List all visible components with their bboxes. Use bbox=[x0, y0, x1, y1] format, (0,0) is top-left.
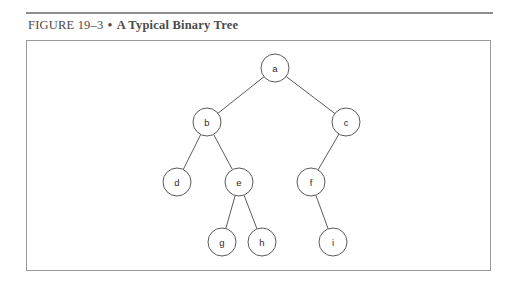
figure-border-box bbox=[26, 40, 491, 271]
caption-label: FIGURE bbox=[28, 18, 74, 32]
caption-title: A Typical Binary Tree bbox=[117, 18, 238, 32]
figure-caption-block: FIGURE 19–3 • A Typical Binary Tree bbox=[26, 12, 493, 37]
figure-caption: FIGURE 19–3 • A Typical Binary Tree bbox=[26, 14, 493, 37]
caption-separator: • bbox=[107, 18, 114, 32]
caption-number: 19–3 bbox=[78, 18, 104, 32]
